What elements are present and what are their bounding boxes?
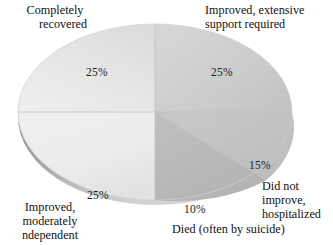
label-improved-moderately-line2: moderately bbox=[0, 214, 102, 228]
label-completely-recovered-line1: Completely bbox=[23, 3, 87, 17]
label-improved-moderately-line3: ndependent bbox=[0, 228, 102, 242]
label-completely-recovered: Completely recovered bbox=[23, 3, 87, 31]
slice-value-improved-extensive: 25% bbox=[211, 66, 233, 78]
label-died: Died (often by suicide) bbox=[172, 222, 285, 236]
slice-value-died: 10% bbox=[184, 203, 206, 215]
label-improved-moderately-line1: Improved, bbox=[25, 200, 75, 214]
label-improved-extensive: Improved, extensive support required bbox=[205, 3, 305, 31]
slice-value-did-not-improve: 15% bbox=[249, 159, 271, 171]
label-did-not-improve-line2: improve, bbox=[262, 193, 321, 207]
label-did-not-improve-line3: hospitalized bbox=[262, 207, 321, 221]
label-did-not-improve-line1: Did not bbox=[262, 179, 299, 193]
pie-chart-stage: 25% 25% 15% 10% 25% bbox=[18, 18, 292, 202]
label-completely-recovered-line2: recovered bbox=[23, 17, 87, 31]
pie-chart-figure: 25% 25% 15% 10% 25% Completely recovered… bbox=[0, 0, 333, 245]
label-improved-extensive-line2: support required bbox=[205, 17, 305, 31]
slice-value-completely-recovered: 25% bbox=[86, 66, 108, 78]
pie-slice-improved-moderately[interactable] bbox=[18, 112, 155, 200]
pie-chart-svg bbox=[18, 18, 292, 208]
label-did-not-improve: Did not improve, hospitalized bbox=[262, 179, 321, 222]
label-improved-moderately: Improved, moderately ndependent bbox=[0, 200, 102, 243]
label-died-line1: Died (often by suicide) bbox=[172, 222, 285, 236]
label-improved-extensive-line1: Improved, extensive bbox=[205, 3, 305, 17]
